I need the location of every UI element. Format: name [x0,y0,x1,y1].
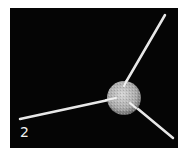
panel-number-label: 2 [20,125,29,139]
particle-illustration [10,8,178,148]
arm-top [126,15,165,82]
arm-left [20,99,113,119]
arm-bottom-right [132,104,173,138]
micrograph-panel: 2 [10,8,178,148]
